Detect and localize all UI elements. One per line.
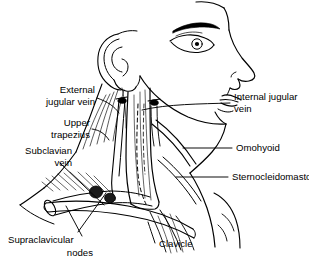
label-upper-trapezius-line2: trapezius — [51, 129, 90, 140]
label-external-jugular-vein-line1: External — [60, 84, 95, 95]
label-omohyoid: Omohyoid — [236, 142, 280, 153]
figure-background — [0, 0, 309, 269]
label-upper-trapezius-line1: Upper — [64, 117, 91, 128]
label-clavicle: Clavicle — [159, 238, 193, 249]
anatomy-illustration: External jugular vein Upper trapezius Su… — [0, 0, 309, 269]
anatomy-figure: External jugular vein Upper trapezius Su… — [0, 0, 309, 269]
label-subclavian-vein-line1: Subclavian — [25, 145, 72, 156]
label-supraclavicular-nodes-line2: nodes — [67, 247, 93, 258]
label-internal-jugular-vein-line1: Internal jugular — [234, 91, 298, 102]
label-sternocleidomastoid: Sternocleidomastoid — [232, 171, 309, 182]
label-subclavian-vein-line2: vein — [54, 157, 72, 168]
label-external-jugular-vein-line2: jugular vein — [45, 96, 95, 107]
label-supraclavicular-nodes-line1: Supraclavicular — [8, 234, 74, 245]
label-internal-jugular-vein-line2: vein — [234, 103, 252, 114]
